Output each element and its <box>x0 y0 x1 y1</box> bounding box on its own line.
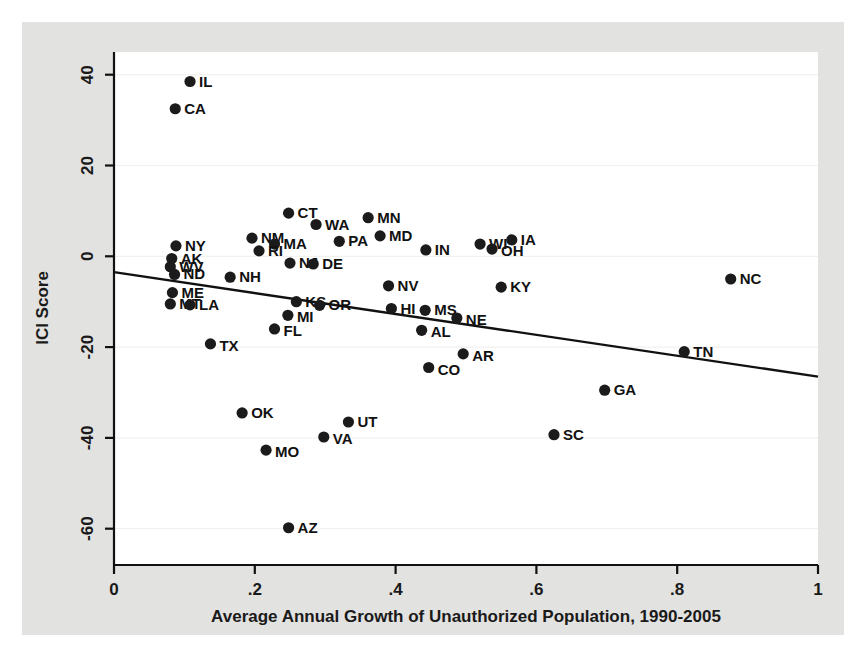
point-label-ct: CT <box>298 204 318 221</box>
point-marker-wa <box>310 219 321 230</box>
point-marker-in <box>420 244 431 255</box>
point-label-de: DE <box>322 255 343 272</box>
point-label-tx: TX <box>219 337 238 354</box>
point-marker-or <box>314 300 325 311</box>
point-label-ok: OK <box>251 404 274 421</box>
point-marker-me <box>167 287 178 298</box>
point-marker-md <box>375 230 386 241</box>
point-label-nc: NC <box>740 270 762 287</box>
point-marker-ga <box>599 385 610 396</box>
point-label-ia: IA <box>521 231 536 248</box>
point-marker-mi <box>282 310 293 321</box>
x-tick-label: 1 <box>813 580 822 599</box>
point-label-nv: NV <box>398 277 419 294</box>
x-tick-label: .8 <box>670 580 684 599</box>
point-marker-ut <box>343 416 354 427</box>
point-marker-ri <box>253 245 264 256</box>
point-label-sc: SC <box>563 426 584 443</box>
point-label-al: AL <box>431 323 451 340</box>
point-marker-de <box>308 258 319 269</box>
plot-area: 40200-20-40-60 0.2.4.6.81 ILCACTNMWAMNMA… <box>22 22 844 635</box>
y-tick-label: -20 <box>79 335 98 360</box>
point-marker-oh <box>486 243 497 254</box>
point-label-la: LA <box>199 296 219 313</box>
y-axis-ticks-group: 40200-20-40-60 <box>79 65 115 541</box>
y-axis-title: ICI Score <box>33 271 52 345</box>
point-marker-ca <box>170 103 181 114</box>
point-label-ne: NE <box>466 311 487 328</box>
point-label-il: IL <box>199 73 212 90</box>
point-marker-mo <box>260 445 271 456</box>
point-label-ky: KY <box>510 278 531 295</box>
point-marker-il <box>184 76 195 87</box>
point-label-mn: MN <box>377 209 400 226</box>
point-label-ma: MA <box>284 235 307 252</box>
point-marker-hi <box>386 303 397 314</box>
x-tick-label: .2 <box>248 580 262 599</box>
point-marker-nj <box>284 258 295 269</box>
point-label-ca: CA <box>184 100 206 117</box>
point-marker-va <box>318 431 329 442</box>
point-marker-ia <box>506 234 517 245</box>
scatter-plot-svg: 40200-20-40-60 0.2.4.6.81 ILCACTNMWAMNMA… <box>22 22 844 635</box>
point-label-md: MD <box>389 227 412 244</box>
x-tick-label: 0 <box>109 580 118 599</box>
point-label-ut: UT <box>357 413 377 430</box>
point-label-wa: WA <box>325 216 349 233</box>
point-marker-tn <box>679 346 690 357</box>
x-axis-title: Average Annual Growth of Unauthorized Po… <box>211 607 721 626</box>
point-marker-al <box>416 325 427 336</box>
point-label-co: CO <box>438 361 461 378</box>
point-marker-ar <box>458 348 469 359</box>
point-marker-ok <box>237 407 248 418</box>
point-marker-tx <box>205 338 216 349</box>
y-tick-label: 20 <box>79 156 98 175</box>
y-tick-label: 0 <box>79 252 98 261</box>
point-marker-nm <box>246 233 257 244</box>
point-marker-nd <box>169 269 180 280</box>
point-label-nd: ND <box>184 265 206 282</box>
point-label-ar: AR <box>472 347 494 364</box>
point-label-va: VA <box>333 430 353 447</box>
point-label-in: IN <box>435 241 450 258</box>
point-label-nh: NH <box>239 268 261 285</box>
point-marker-nc <box>725 273 736 284</box>
point-marker-mn <box>363 212 374 223</box>
point-marker-ms <box>420 305 431 316</box>
point-marker-co <box>423 362 434 373</box>
point-marker-ct <box>283 208 294 219</box>
y-tick-label: -40 <box>79 426 98 451</box>
point-marker-wi <box>474 238 485 249</box>
point-marker-pa <box>334 236 345 247</box>
point-marker-az <box>283 522 294 533</box>
point-marker-mt <box>165 298 176 309</box>
x-tick-label: .4 <box>389 580 404 599</box>
point-label-hi: HI <box>400 300 415 317</box>
point-label-mo: MO <box>275 443 299 460</box>
point-label-fl: FL <box>284 322 302 339</box>
point-marker-ne <box>451 312 462 323</box>
point-label-or: OR <box>329 296 352 313</box>
point-marker-nv <box>383 280 394 291</box>
x-tick-label: .6 <box>529 580 543 599</box>
point-label-ga: GA <box>614 381 637 398</box>
point-label-pa: PA <box>348 232 368 249</box>
point-marker-sc <box>548 429 559 440</box>
point-marker-ks <box>291 296 302 307</box>
point-marker-nh <box>225 272 236 283</box>
point-label-tn: TN <box>693 343 713 360</box>
x-axis-ticks-group: 0.2.4.6.81 <box>109 565 822 599</box>
point-marker-fl <box>269 323 280 334</box>
point-marker-la <box>184 299 195 310</box>
y-tick-label: 40 <box>79 65 98 84</box>
point-marker-ky <box>496 282 507 293</box>
figure-panel: 40200-20-40-60 0.2.4.6.81 ILCACTNMWAMNMA… <box>22 22 844 635</box>
point-label-az: AZ <box>298 519 318 536</box>
point-label-ri: RI <box>268 242 283 259</box>
plot-background <box>114 52 818 565</box>
y-tick-label: -60 <box>79 516 98 541</box>
